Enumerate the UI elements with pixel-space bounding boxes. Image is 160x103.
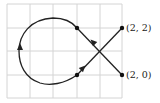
point-start-dot	[120, 26, 124, 30]
grid	[7, 4, 122, 98]
curve-dot-upper	[75, 26, 79, 30]
diagram-canvas	[0, 0, 160, 103]
point-end-dot	[120, 73, 124, 77]
point-label-end: (2, 0)	[126, 70, 152, 80]
arrow-icon	[17, 43, 23, 50]
curve-dot-lower	[75, 73, 79, 77]
point-label-start: (2, 2)	[126, 23, 152, 33]
